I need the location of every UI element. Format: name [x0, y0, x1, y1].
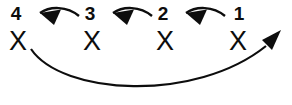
node-3-label: 3: [85, 3, 96, 24]
node-4-label: 4: [11, 3, 22, 24]
node-3: 3 X: [83, 3, 101, 56]
arrow-3-to-4: [40, 8, 79, 25]
node-2: 2 X: [156, 3, 174, 56]
node-1: 1 X: [229, 3, 247, 56]
node-4-mark: X: [9, 26, 27, 56]
node-2-label: 2: [158, 3, 169, 24]
diagram-canvas: 4 X 3 X 2 X 1 X: [0, 0, 292, 105]
node-4: 4 X: [9, 3, 27, 56]
arrow-2-to-3: [113, 8, 152, 25]
node-1-label: 1: [234, 3, 245, 24]
node-2-mark: X: [156, 26, 174, 56]
node-1-mark: X: [229, 26, 247, 56]
sequence-diagram: 4 X 3 X 2 X 1 X: [0, 0, 292, 105]
node-3-mark: X: [83, 26, 101, 56]
arrow-1-to-2: [186, 8, 225, 25]
